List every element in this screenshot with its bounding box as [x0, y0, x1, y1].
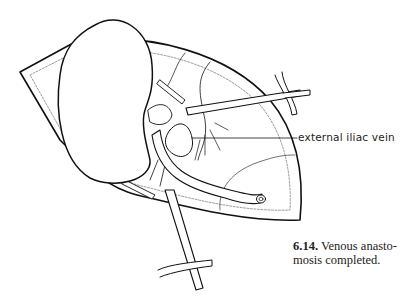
surgical-illustration: external iliac vein 6.14. Venous anasto-… — [0, 0, 413, 301]
external-iliac-vein-label: external iliac vein — [298, 131, 395, 143]
caption-line-1: Venous anasto- — [321, 239, 397, 253]
caption-number: 6.14. — [293, 239, 318, 253]
figure-caption: 6.14. Venous anasto- mosis completed. — [293, 239, 411, 267]
caption-line-2: mosis completed. — [293, 253, 381, 267]
kidney — [58, 20, 152, 183]
